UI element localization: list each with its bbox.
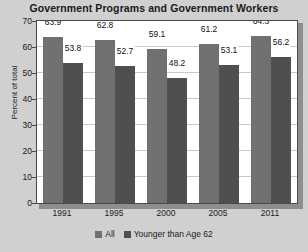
legend-item: Younger than Age 62 — [124, 229, 213, 239]
chart-title: Government Programs and Government Worke… — [0, 2, 308, 14]
bar-value-label: 48.2 — [168, 58, 187, 68]
legend-label: All — [105, 229, 114, 239]
chart-legend: AllYounger than Age 62 — [0, 229, 308, 239]
y-axis-tick-label: 20 — [8, 146, 32, 156]
legend-label: Younger than Age 62 — [134, 229, 213, 239]
bar-chart: Government Programs and Government Worke… — [0, 0, 308, 252]
bar-value-label: 52.7 — [116, 46, 135, 56]
y-axis-tick-label: 40 — [8, 94, 32, 104]
bar-2000-all — [147, 49, 167, 203]
bar-1995-all — [95, 40, 115, 203]
bar-value-label: 62.8 — [96, 20, 115, 30]
y-axis-tick-label: 10 — [8, 172, 32, 182]
legend-swatch-icon — [95, 231, 102, 238]
x-axis-tick-label: 2000 — [157, 208, 176, 218]
bar-value-label: 61.2 — [200, 24, 219, 34]
y-axis-tick-label: 30 — [8, 120, 32, 130]
bar-1991-all — [43, 37, 63, 203]
legend-swatch-icon — [124, 231, 131, 238]
bar-2005-younger — [219, 65, 239, 203]
x-axis-tick-label: 2011 — [261, 208, 279, 218]
bar-value-label: 56.2 — [272, 37, 291, 47]
y-axis-tick-label: 50 — [8, 68, 32, 78]
bar-2000-younger — [167, 78, 187, 203]
bar-1995-younger — [115, 66, 135, 203]
bar-value-label: 53.8 — [64, 43, 83, 53]
x-axis-tick-label: 1995 — [105, 208, 124, 218]
bar-value-label: 53.1 — [220, 45, 239, 55]
bar-1991-younger — [63, 63, 83, 203]
bar-2011-all — [251, 36, 271, 203]
bar-value-label: 59.1 — [148, 29, 167, 39]
plot-area: 63.953.862.852.759.148.261.253.164.356.2 — [36, 20, 298, 204]
x-axis-tick-label: 2005 — [209, 208, 228, 218]
bar-2011-younger — [271, 57, 291, 203]
y-axis-tick-label: 60 — [8, 42, 32, 52]
legend-item: All — [95, 229, 114, 239]
x-axis-tick-label: 1991 — [53, 208, 72, 218]
bar-value-label: 64.3 — [252, 20, 271, 26]
bar-2005-all — [199, 44, 219, 203]
y-axis-tick-label: 70 — [8, 16, 32, 26]
y-axis-tick-label: 0 — [8, 198, 32, 208]
bar-value-label: 63.9 — [44, 20, 63, 27]
